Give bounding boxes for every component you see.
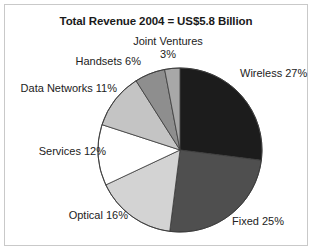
label-data-networks: Data Networks 11% xyxy=(0,82,117,95)
pie-slice-wireless xyxy=(180,68,262,160)
label-services: Services 12% xyxy=(0,145,106,158)
label-wireless: Wireless 27% xyxy=(240,67,312,80)
pie-chart-figure: Total Revenue 2004 = US$5.8 Billion Join… xyxy=(0,0,312,250)
label-joint-ventures-name: Joint Ventures xyxy=(133,35,203,47)
label-handsets: Handsets 6% xyxy=(0,55,141,68)
pie-slices xyxy=(98,68,262,232)
label-fixed: Fixed 25% xyxy=(232,215,310,228)
label-joint-ventures-value: 3% xyxy=(160,48,176,60)
label-optical: Optical 16% xyxy=(0,209,128,222)
